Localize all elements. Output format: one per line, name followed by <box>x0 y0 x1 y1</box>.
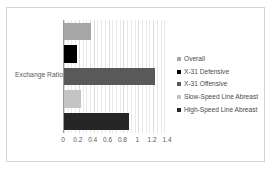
legend-item-label: High-Speed Line Abreast <box>184 106 257 114</box>
x-axis-tick-label: 1 <box>135 135 139 144</box>
legend-item-0[interactable]: Overall <box>177 53 263 66</box>
bar <box>64 113 129 131</box>
plot-area <box>63 20 167 133</box>
x-axis-tick-label: 1.4 <box>162 135 171 144</box>
x-axis-tick-label: 0 <box>61 135 65 144</box>
chart-legend: OverallX-31 DefensiveX-31 OffensiveSlow-… <box>177 53 263 116</box>
legend-swatch-icon <box>177 70 181 74</box>
bar <box>64 90 81 108</box>
legend-swatch-icon <box>177 82 181 86</box>
legend-swatch-icon <box>177 108 181 112</box>
legend-swatch-icon <box>177 57 181 61</box>
legend-item-2[interactable]: X-31 Offensive <box>177 78 263 91</box>
chart-container: Exchange Ratio 00.20.40.60.811.21.4 Over… <box>6 7 265 162</box>
legend-item-4[interactable]: High-Speed Line Abreast <box>177 103 263 116</box>
bar <box>64 23 91 41</box>
x-axis-tick-label: 0.4 <box>88 135 97 144</box>
legend-item-label: Slow-Speed Line Abreast <box>184 93 258 101</box>
bar-series-group <box>64 20 167 133</box>
x-axis-tick-labels: 00.20.40.60.811.21.4 <box>63 135 173 147</box>
x-axis-tick-label: 1.2 <box>148 135 157 144</box>
legend-item-label: Overall <box>184 55 205 63</box>
y-axis-label: Exchange Ratio <box>15 70 63 79</box>
legend-item-1[interactable]: X-31 Defensive <box>177 66 263 79</box>
bar <box>64 45 77 63</box>
x-axis-tick-label: 0.8 <box>118 135 127 144</box>
x-axis-tick-label: 0.2 <box>73 135 82 144</box>
legend-item-3[interactable]: Slow-Speed Line Abreast <box>177 91 263 104</box>
legend-item-label: X-31 Offensive <box>184 80 228 88</box>
legend-item-label: X-31 Defensive <box>184 68 229 76</box>
bar <box>64 68 155 86</box>
legend-swatch-icon <box>177 95 181 99</box>
x-axis-tick-label: 0.6 <box>103 135 112 144</box>
